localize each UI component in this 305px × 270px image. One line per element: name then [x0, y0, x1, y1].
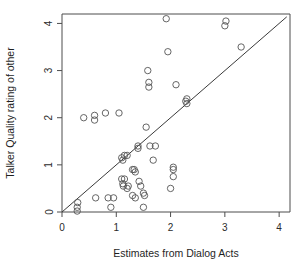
data-point	[74, 208, 80, 214]
x-tick-label-4: 4	[276, 222, 282, 233]
x-axis-label: Estimates from Dialog Acts	[113, 247, 238, 259]
identity-reference-line	[62, 17, 287, 212]
data-point	[140, 204, 146, 210]
data-point	[238, 44, 244, 50]
data-point	[165, 49, 171, 55]
data-point	[116, 110, 122, 116]
data-point	[150, 157, 156, 163]
data-point	[91, 112, 97, 118]
data-point	[145, 67, 151, 73]
data-point	[102, 110, 108, 116]
scatter-plot-figure: 01234 01234 Estimates from Dialog Acts T…	[0, 0, 305, 270]
data-point	[143, 124, 149, 130]
data-point	[167, 185, 173, 191]
x-tick-label-3: 3	[222, 222, 228, 233]
x-axis-tick-labels: 01234	[59, 222, 282, 233]
data-point	[81, 115, 87, 121]
data-point	[223, 18, 229, 24]
data-point	[163, 16, 169, 22]
y-tick-label-2: 2	[44, 114, 55, 120]
x-tick-label-2: 2	[168, 222, 174, 233]
y-tick-label-0: 0	[44, 209, 55, 215]
data-point	[75, 199, 81, 205]
identity-reference-line	[62, 17, 287, 212]
data-point	[222, 23, 228, 29]
y-axis-label: Talker Quality rating of other	[4, 47, 16, 179]
y-tick-label-3: 3	[44, 67, 55, 73]
y-axis-ticks	[57, 23, 62, 212]
data-point	[184, 96, 190, 102]
x-tick-label-1: 1	[114, 222, 120, 233]
y-tick-label-1: 1	[44, 162, 55, 168]
data-point	[92, 195, 98, 201]
data-point	[125, 183, 131, 189]
data-point	[146, 79, 152, 85]
x-tick-label-0: 0	[59, 222, 65, 233]
data-point	[170, 173, 176, 179]
x-axis-ticks	[62, 212, 279, 217]
plot-canvas: 01234 01234 Estimates from Dialog Acts T…	[0, 0, 305, 270]
data-points	[74, 16, 244, 215]
data-point	[141, 192, 147, 198]
data-point	[108, 204, 114, 210]
y-tick-label-4: 4	[44, 20, 55, 26]
data-point	[173, 82, 179, 88]
y-axis-tick-labels: 01234	[44, 20, 55, 215]
